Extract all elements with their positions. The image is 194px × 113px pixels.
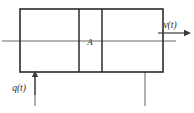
outflow-arrow-head	[184, 30, 191, 36]
inflow-rate-label: q(t)	[12, 83, 26, 94]
figure-container: A v(t) q(t)	[0, 0, 194, 113]
tank-schematic-diagram: A v(t) q(t)	[0, 0, 194, 113]
outflow-velocity-label: v(t)	[163, 20, 176, 31]
area-label: A	[86, 37, 93, 47]
